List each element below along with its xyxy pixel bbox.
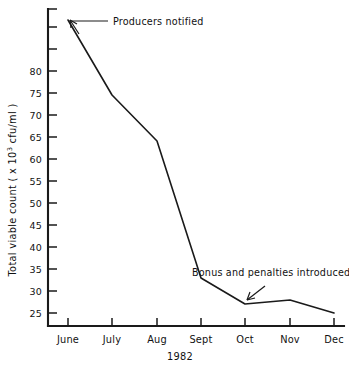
x-axis-title: 1982	[167, 351, 193, 362]
annotation-bonus-penalties: Bonus and penalties introduced	[192, 267, 349, 300]
y-axis-title-units: cfu/ml )	[7, 103, 18, 146]
x-tick-label-july: July	[102, 334, 121, 345]
x-tick-label-sept: Sept	[189, 334, 212, 345]
y-tick-label-55: 55	[30, 176, 43, 187]
y-tick-label-50: 50	[30, 198, 43, 209]
line-chart: 80 75 70 65 60 55 50 45 40 35 30 25 June	[0, 0, 349, 367]
y-tick-label-35: 35	[30, 264, 43, 275]
annotation-bonus-penalties-label: Bonus and penalties introduced	[192, 267, 349, 278]
chart-container: 80 75 70 65 60 55 50 45 40 35 30 25 June	[0, 0, 349, 367]
annotation-producers-notified: Producers notified	[70, 16, 204, 34]
y-axis-tick-labels: 80 75 70 65 60 55 50 45 40 35 30 25	[30, 66, 43, 319]
y-tick-label-65: 65	[30, 132, 43, 143]
y-tick-label-70: 70	[30, 110, 43, 121]
x-axis-tick-labels: June July Aug Sept Oct Nov Dec	[56, 334, 344, 345]
y-tick-label-25: 25	[30, 308, 43, 319]
y-axis-title: Total viable count ( x 103 cfu/ml )	[6, 103, 18, 277]
y-axis-title-main: Total viable count ( x 10	[7, 151, 18, 277]
y-tick-label-45: 45	[30, 220, 43, 231]
x-tick-label-nov: Nov	[280, 334, 300, 345]
x-axis-ticks	[68, 318, 334, 326]
y-tick-label-30: 30	[30, 286, 43, 297]
y-axis-ticks	[48, 9, 57, 313]
y-tick-label-80: 80	[30, 66, 43, 77]
x-tick-label-oct: Oct	[236, 334, 254, 345]
x-tick-label-aug: Aug	[147, 334, 167, 345]
y-tick-label-40: 40	[30, 242, 43, 253]
y-tick-label-60: 60	[30, 154, 43, 165]
svg-text:Total viable count ( x 103 cfu: Total viable count ( x 103 cfu/ml )	[6, 103, 18, 277]
annotation-producers-notified-label: Producers notified	[113, 16, 204, 27]
x-tick-label-june: June	[56, 334, 79, 345]
x-tick-label-dec: Dec	[324, 334, 344, 345]
y-tick-label-75: 75	[30, 88, 43, 99]
